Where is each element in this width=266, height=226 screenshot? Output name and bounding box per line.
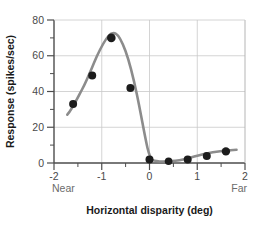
chart-canvas: 0 20 40 60 80 -2 -1 0 1 2 Near Far Horiz…	[0, 0, 266, 226]
x-tick-label: 1	[194, 170, 200, 182]
data-point-marker	[146, 155, 154, 163]
x-tick-label: 2	[242, 170, 248, 182]
data-point-marker	[203, 152, 211, 160]
y-tick-label: 20	[32, 121, 44, 133]
x-axis-major-ticks	[54, 163, 245, 170]
y-tick-label: 80	[32, 14, 44, 26]
data-point-marker	[107, 34, 116, 43]
x-axis-near-label: Near	[52, 182, 75, 194]
y-tick-label: 60	[32, 49, 44, 61]
y-tick-label: 0	[38, 157, 44, 169]
data-point-marker	[184, 155, 192, 163]
x-tick-label: 0	[147, 170, 153, 182]
data-point-marker	[222, 147, 230, 155]
y-axis-major-ticks	[47, 20, 54, 163]
data-point-marker	[88, 71, 96, 79]
x-axis-far-label: Far	[231, 182, 247, 194]
x-tick-label: -1	[97, 170, 106, 182]
x-axis-title: Horizontal disparity (deg)	[86, 204, 213, 216]
data-point-marker	[69, 100, 77, 108]
chart-figure: 0 20 40 60 80 -2 -1 0 1 2 Near Far Horiz…	[0, 0, 266, 226]
x-tick-label: -2	[49, 170, 58, 182]
y-axis-title: Response (spikes/sec)	[4, 35, 16, 148]
data-point-marker	[165, 157, 173, 165]
data-point-marker	[126, 84, 134, 92]
y-tick-label: 40	[32, 85, 44, 97]
